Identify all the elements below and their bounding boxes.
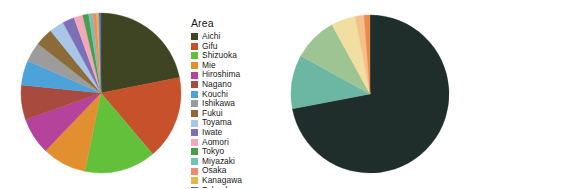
legend-area-item[interactable]: Shizuoka xyxy=(191,51,242,61)
region-pie-svg xyxy=(290,14,450,174)
legend-area: Area AichiGifuShizuokaMieHiroshimaNagano… xyxy=(191,17,242,188)
legend-area-swatch-icon xyxy=(191,62,198,69)
legend-area-items: AichiGifuShizuokaMieHiroshimaNaganoKouch… xyxy=(191,32,242,188)
legend-area-swatch-icon xyxy=(191,120,198,127)
legend-area-swatch-icon xyxy=(191,129,198,136)
legend-area-title: Area xyxy=(191,17,242,29)
area-pie-svg xyxy=(20,12,182,174)
region-pie-chart xyxy=(290,14,450,174)
legend-area-swatch-icon xyxy=(191,158,198,165)
legend-area-swatch-icon xyxy=(191,43,198,50)
legend-area-item[interactable]: Fukuoka xyxy=(191,186,242,189)
legend-area-swatch-icon xyxy=(191,139,198,146)
legend-area-label: Fukuoka xyxy=(202,186,234,189)
legend-area-swatch-icon xyxy=(191,187,198,188)
legend-area-swatch-icon xyxy=(191,168,198,175)
legend-area-swatch-icon xyxy=(191,91,198,98)
legend-area-swatch-icon xyxy=(191,52,198,59)
legend-area-swatch-icon xyxy=(191,33,198,40)
legend-area-swatch-icon xyxy=(191,177,198,184)
pie-chart-figure: Area AichiGifuShizuokaMieHiroshimaNagano… xyxy=(0,0,564,188)
panel-area: Area AichiGifuShizuokaMieHiroshimaNagano… xyxy=(0,0,282,188)
area-pie-chart xyxy=(20,12,182,174)
legend-area-swatch-icon xyxy=(191,100,198,107)
panel-region: Region ChubuChugoku/ShikokuKinkiTohokuKa… xyxy=(282,0,564,188)
legend-area-swatch-icon xyxy=(191,148,198,155)
legend-area-swatch-icon xyxy=(191,81,198,88)
legend-area-swatch-icon xyxy=(191,110,198,117)
legend-area-swatch-icon xyxy=(191,72,198,79)
